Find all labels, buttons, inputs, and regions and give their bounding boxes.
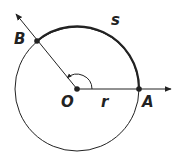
point-o	[74, 86, 80, 92]
point-b	[34, 38, 40, 44]
label-r: r	[101, 95, 108, 110]
circle-diagram	[0, 0, 181, 161]
label-b: B	[14, 32, 25, 47]
label-a: A	[142, 95, 154, 110]
label-o: O	[61, 95, 74, 110]
point-a	[136, 86, 142, 92]
arc-s	[37, 26, 139, 89]
label-s: s	[111, 13, 120, 28]
